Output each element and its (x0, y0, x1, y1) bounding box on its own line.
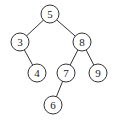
tree-node: 7 (57, 64, 75, 82)
node-label: 6 (50, 99, 56, 111)
tree-node: 9 (89, 64, 107, 82)
tree-node: 3 (11, 33, 29, 51)
tree-node: 8 (73, 33, 91, 51)
tree-node: 4 (28, 64, 46, 82)
tree-node: 5 (41, 5, 59, 23)
node-label: 4 (34, 67, 40, 79)
node-label: 5 (47, 8, 53, 20)
node-label: 3 (17, 36, 23, 48)
tree-diagram: 5 3 8 4 7 9 6 (0, 0, 116, 126)
node-label: 7 (63, 67, 69, 79)
node-label: 9 (95, 67, 101, 79)
edges (20, 14, 98, 105)
node-label: 8 (79, 36, 85, 48)
tree-node: 6 (44, 96, 62, 114)
